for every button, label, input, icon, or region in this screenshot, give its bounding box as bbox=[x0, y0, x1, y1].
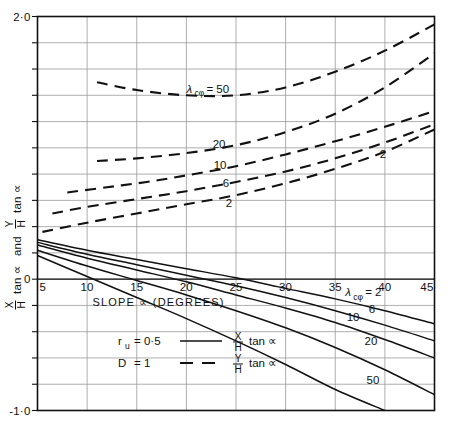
legend-fraction-denominator: H bbox=[234, 342, 241, 353]
x-tick-label: 45 bbox=[420, 281, 433, 293]
curve-value-label: 50 bbox=[367, 374, 380, 386]
curve-label: 20 bbox=[213, 138, 226, 150]
legend-condition: D bbox=[118, 357, 126, 369]
curve-value-label: 2 bbox=[380, 148, 386, 160]
curve-value-label: 6 bbox=[223, 177, 229, 189]
curve-label: 6 bbox=[223, 177, 229, 189]
curve-value-label: 10 bbox=[214, 159, 227, 171]
y-tick-label: 2·0 bbox=[13, 11, 30, 23]
slope-stability-chart: 51015202530354045 2·00-1·0 λcφ= 50201062… bbox=[0, 0, 455, 424]
curve-label: 10 bbox=[214, 159, 227, 171]
curve-value-label: 20 bbox=[365, 335, 378, 347]
fraction-numerator: X bbox=[4, 301, 15, 308]
x-tick-label: 25 bbox=[229, 281, 242, 293]
x-tick-label: 20 bbox=[180, 281, 193, 293]
curve-value-label: 10 bbox=[347, 311, 360, 323]
lambda-value: = 2 bbox=[365, 286, 381, 298]
legend-condition-value: = 0·5 bbox=[134, 335, 161, 347]
curve-label: 6 bbox=[369, 303, 375, 315]
curve-value-label: 6 bbox=[369, 303, 375, 315]
curve-label: 2 bbox=[380, 148, 386, 160]
lambda-subscript: cφ bbox=[194, 88, 204, 98]
fraction-denominator: H bbox=[16, 301, 27, 308]
legend-fraction-numerator: Y bbox=[235, 353, 242, 364]
lambda-symbol: λ bbox=[185, 83, 192, 95]
y-axis-title-tan-2: tan ∝ bbox=[11, 184, 23, 213]
x-tick-label: 10 bbox=[81, 281, 94, 293]
chart-figure: 51015202530354045 2·00-1·0 λcφ= 50201062… bbox=[0, 0, 455, 424]
curve-value-label: 2 bbox=[226, 197, 232, 209]
fraction-denominator: H bbox=[16, 220, 27, 227]
lambda-value: = 50 bbox=[206, 83, 229, 95]
y-axis-title-tan-1: tan ∝ bbox=[11, 265, 23, 294]
curve-label: 2 bbox=[226, 197, 232, 209]
legend-fraction-numerator: X bbox=[235, 331, 242, 342]
legend-fraction-denominator: H bbox=[234, 364, 241, 375]
x-axis-title: SLOPE ∝ (DEGREES) bbox=[92, 296, 224, 308]
lambda-subscript: cφ bbox=[353, 292, 363, 302]
lambda-symbol: λ bbox=[344, 286, 351, 298]
curve-label: 20 bbox=[365, 335, 378, 347]
curve-label: 10 bbox=[347, 311, 360, 323]
curve-value-label: 20 bbox=[213, 138, 226, 150]
x-tick-label: 30 bbox=[279, 281, 292, 293]
y-axis-title-connector: and bbox=[11, 236, 23, 256]
y-tick-label: -1·0 bbox=[9, 405, 30, 417]
y-tick-label: 0 bbox=[24, 273, 31, 285]
legend-quantity-suffix: tan ∝ bbox=[249, 357, 277, 369]
curve-label: 50 bbox=[367, 374, 380, 386]
chart-background bbox=[0, 0, 455, 424]
legend-condition-subscript: u bbox=[125, 341, 130, 351]
legend-condition: r bbox=[118, 335, 122, 347]
x-tick-label: 35 bbox=[329, 281, 342, 293]
fraction-numerator: Y bbox=[4, 220, 15, 227]
legend-condition-value: = 1 bbox=[134, 357, 150, 369]
legend-quantity-suffix: tan ∝ bbox=[249, 335, 277, 347]
x-tick-label: 15 bbox=[130, 281, 143, 293]
x-tick-label: 5 bbox=[40, 281, 47, 293]
